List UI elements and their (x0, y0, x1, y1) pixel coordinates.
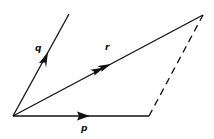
dashed-edge (149, 15, 203, 116)
label-p: p (81, 124, 87, 133)
diagram-canvas (0, 0, 214, 139)
label-r: r (105, 43, 109, 52)
vector-diagram: q r p (0, 0, 214, 139)
label-q: q (35, 44, 41, 53)
